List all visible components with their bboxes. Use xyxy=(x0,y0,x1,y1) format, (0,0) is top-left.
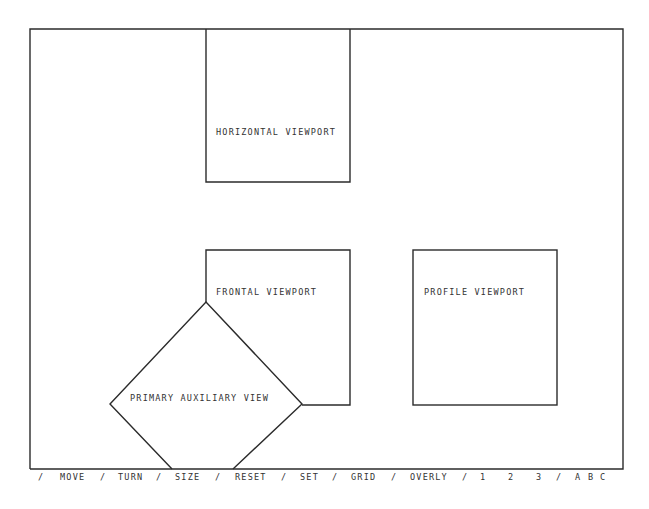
frontal-viewport-box[interactable] xyxy=(206,250,350,405)
menu-separator: / xyxy=(556,472,562,482)
menu-separator: / xyxy=(100,472,106,482)
menu-separator: / xyxy=(391,472,397,482)
horizontal-viewport-label: HORIZONTAL VIEWPORT xyxy=(216,127,336,137)
menu-item-c[interactable]: C xyxy=(600,472,606,482)
menu-item-1[interactable]: 1 xyxy=(480,472,486,482)
menu-separator: / xyxy=(156,472,162,482)
profile-viewport-box[interactable] xyxy=(413,250,557,405)
menu-item-size[interactable]: SIZE xyxy=(175,472,200,482)
menu-item-move[interactable]: MOVE xyxy=(60,472,85,482)
menu-separator: / xyxy=(38,472,44,482)
menu-separator: / xyxy=(281,472,287,482)
auxiliary-view-diamond[interactable] xyxy=(110,302,302,469)
menu-separator: / xyxy=(332,472,338,482)
frontal-viewport-label: FRONTAL VIEWPORT xyxy=(216,287,317,297)
menu-item-b[interactable]: B xyxy=(588,472,594,482)
menu-item-set[interactable]: SET xyxy=(300,472,319,482)
menu-item-turn[interactable]: TURN xyxy=(118,472,143,482)
menu-item-grid[interactable]: GRID xyxy=(351,472,376,482)
menu-item-3[interactable]: 3 xyxy=(536,472,542,482)
screen-frame xyxy=(30,29,623,469)
menu-separator: / xyxy=(215,472,221,482)
horizontal-viewport-box[interactable] xyxy=(206,29,350,182)
menu-separator: / xyxy=(462,472,468,482)
menu-item-reset[interactable]: RESET xyxy=(235,472,267,482)
menu-item-2[interactable]: 2 xyxy=(508,472,514,482)
menu-item-overly[interactable]: OVERLY xyxy=(410,472,448,482)
drawing-canvas[interactable] xyxy=(0,0,649,509)
auxiliary-view-label: PRIMARY AUXILIARY VIEW xyxy=(130,393,269,403)
menu-item-a[interactable]: A xyxy=(575,472,581,482)
profile-viewport-label: PROFILE VIEWPORT xyxy=(424,287,525,297)
